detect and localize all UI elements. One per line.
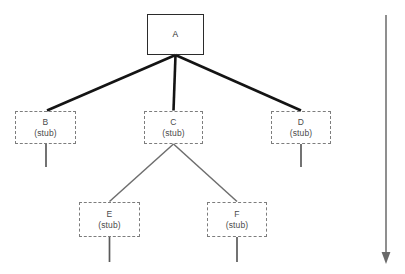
node-d-sublabel: (stub) (290, 128, 312, 138)
node-b[interactable]: B (stub) (15, 111, 76, 144)
node-b-sublabel: (stub) (34, 128, 56, 138)
edge-c-to-f (174, 144, 238, 202)
node-d-label: D (298, 117, 304, 127)
node-c-label: C (170, 117, 176, 127)
node-d[interactable]: D (stub) (271, 111, 331, 144)
edge-a-to-d (176, 55, 302, 111)
downward-direction-arrow-icon (382, 15, 391, 264)
edge-c-to-e (110, 144, 174, 202)
node-f-label: F (234, 209, 239, 219)
node-b-label: B (43, 117, 49, 127)
node-a-label: A (173, 29, 179, 39)
node-e-label: E (107, 209, 113, 219)
node-c[interactable]: C (stub) (144, 111, 203, 144)
node-f-sublabel: (stub) (226, 220, 248, 230)
node-f[interactable]: F (stub) (207, 202, 267, 237)
node-c-sublabel: (stub) (162, 128, 184, 138)
node-e-sublabel: (stub) (98, 220, 120, 230)
edge-a-to-b (47, 55, 176, 111)
diagram-canvas: A B (stub) C (stub) D (stub) E (stub) F … (0, 0, 405, 274)
node-e[interactable]: E (stub) (79, 202, 140, 237)
node-a[interactable]: A (147, 14, 204, 55)
edge-a-to-c (174, 55, 176, 111)
